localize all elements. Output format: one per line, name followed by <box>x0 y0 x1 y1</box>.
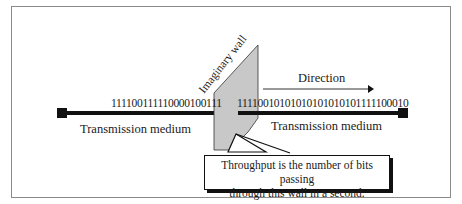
direction-label: Direction <box>298 72 345 85</box>
right-bit-string: 11110010101010101010101111100010 <box>237 98 408 110</box>
throughput-callout: Throughput is the number of bits passing… <box>204 155 390 190</box>
callout-line-1: Throughput is the number of bits passing <box>205 158 389 186</box>
right-endpoint-icon <box>398 108 408 118</box>
direction-arrow-icon <box>368 85 374 93</box>
left-medium-label: Transmission medium <box>80 123 191 136</box>
callout-line-2: through this wall in a second. <box>205 186 389 200</box>
left-endpoint-icon <box>57 108 67 118</box>
right-medium-label: Transmission medium <box>271 120 382 133</box>
left-bit-string: 111100111110000100111 <box>111 98 222 110</box>
